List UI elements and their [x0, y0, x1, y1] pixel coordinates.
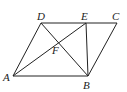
label-f: F	[51, 44, 59, 56]
segment-bc	[88, 23, 117, 76]
label-a: A	[2, 71, 10, 83]
label-d: D	[36, 10, 45, 22]
geometry-diagram: A B C D E F	[0, 0, 127, 92]
diagram-svg: A B C D E F	[0, 0, 127, 92]
segment-eb	[86, 23, 88, 76]
segment-ae	[13, 23, 86, 76]
segment-db	[41, 23, 88, 76]
label-b: B	[83, 79, 90, 91]
label-c: C	[112, 10, 120, 22]
segment-da	[13, 23, 41, 76]
label-e: E	[80, 10, 88, 22]
